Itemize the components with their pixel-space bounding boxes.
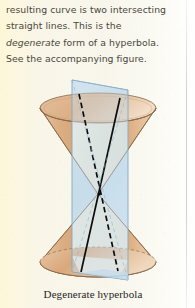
body-text-line-2: straight lines. This is the [6, 18, 186, 34]
body-text-line-3-rest: form of a hyperbola. [60, 37, 159, 48]
cone-apex [98, 193, 101, 196]
emphasis-degenerate: degenerate [6, 37, 60, 48]
body-text-line-4: See the accompanying figure. [6, 51, 186, 67]
body-text-line-1: resulting curve is two intersecting [6, 2, 186, 18]
body-text-block: resulting curve is two intersecting stra… [6, 2, 186, 68]
figure-caption: Degenerate hyperbola [0, 288, 186, 300]
body-text-line-3: degenerate form of a hyperbola. [6, 35, 186, 51]
textbook-page: resulting curve is two intersecting stra… [0, 0, 195, 308]
figure-degenerate-hyperbola [0, 76, 195, 288]
